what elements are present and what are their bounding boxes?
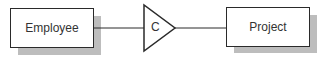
relationship-label: C	[151, 20, 160, 34]
entity-project: Project	[226, 7, 310, 47]
entity-employee-label: Employee	[25, 21, 78, 35]
er-diagram: Employee Project C	[0, 0, 326, 63]
entity-project-label: Project	[249, 20, 286, 34]
entity-employee: Employee	[10, 8, 94, 48]
